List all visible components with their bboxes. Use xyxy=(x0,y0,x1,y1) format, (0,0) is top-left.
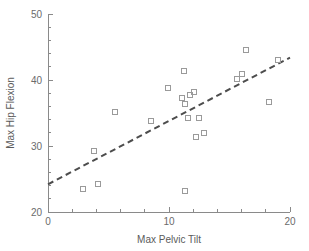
data-point-marker xyxy=(165,85,170,90)
x-tick-label: 10 xyxy=(163,216,175,227)
data-point-marker xyxy=(267,100,272,105)
axes xyxy=(48,14,290,212)
scatter-chart-figure: 20304050 01020 Max Pelvic Tilt Max Hip F… xyxy=(0,0,309,251)
data-point-marker xyxy=(234,77,239,82)
data-point-marker xyxy=(192,89,197,94)
x-axis-title: Max Pelvic Tilt xyxy=(137,234,201,245)
x-tick-labels: 01020 xyxy=(45,216,296,227)
data-point-marker xyxy=(182,188,187,193)
y-tick-labels: 20304050 xyxy=(31,9,43,218)
data-point-marker xyxy=(91,149,96,154)
y-tick-label: 30 xyxy=(31,141,43,152)
data-point-marker xyxy=(181,68,186,73)
data-point-marker xyxy=(244,48,249,53)
data-point-marker xyxy=(95,182,100,187)
y-tick-label: 40 xyxy=(31,75,43,86)
data-point-marker xyxy=(193,134,198,139)
data-point-marker xyxy=(182,101,187,106)
data-point-marker xyxy=(81,186,86,191)
data-point-marker xyxy=(112,109,117,114)
plot-svg: 20304050 01020 Max Pelvic Tilt Max Hip F… xyxy=(0,0,309,251)
y-axis-title: Max Hip Flexion xyxy=(5,77,16,149)
data-point-marker xyxy=(186,115,191,120)
data-points xyxy=(81,48,281,194)
data-point-marker xyxy=(239,72,244,77)
trend-line xyxy=(48,58,290,185)
data-point-marker xyxy=(187,93,192,98)
data-point-marker xyxy=(180,96,185,101)
y-tick-label: 20 xyxy=(31,207,43,218)
tick-marks xyxy=(48,14,290,212)
data-point-marker xyxy=(197,116,202,121)
x-tick-label: 20 xyxy=(284,216,296,227)
data-point-marker xyxy=(148,118,153,123)
x-tick-label: 0 xyxy=(45,216,51,227)
data-point-marker xyxy=(202,130,207,135)
regression-trend-line xyxy=(48,58,290,185)
y-tick-label: 50 xyxy=(31,9,43,20)
